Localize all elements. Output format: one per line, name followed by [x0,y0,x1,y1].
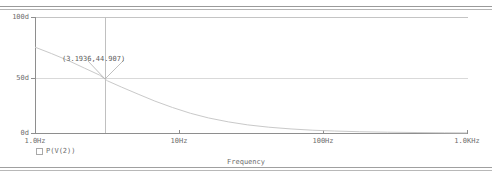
x-tick-1hz [35,130,36,134]
waveform-viewer: 100d 50d 0d 1.0Hz 10Hz 100Hz 1.0KHz (3.1… [0,0,492,177]
y-tick-label-0d: 0d [21,129,29,137]
x-tick-1khz [467,130,468,134]
y-tick-label-50d-wrap: 50d [0,74,29,83]
gridline-50d [35,78,468,79]
x-axis-title: Frequency [0,158,492,166]
x-tick-label-100hz: 100Hz [312,137,333,145]
x-tick-label-1khz: 1.0KHz [454,137,479,145]
x-tick-10hz [179,130,180,134]
y-tick-label-100d-wrap: 100d [0,13,29,22]
legend-marker-square-icon[interactable] [36,148,43,155]
x-tick-label-1hz: 1.0Hz [24,137,45,145]
legend-item-label: P(V(2)) [46,147,76,155]
cursor-readout-label: (3.1936,44.907) [62,55,125,63]
measurement-cursor-line[interactable] [105,17,106,133]
x-tick-100hz [323,130,324,134]
y-tick-label-100d: 100d [12,13,29,21]
plot-top-rule [35,17,468,18]
x-axis-line [35,133,468,134]
window-frame-bottom-line-outer [0,167,492,168]
window-frame-top-line-outer [0,6,492,7]
y-axis-line [35,17,36,133]
y-tick-100d [31,17,36,18]
window-frame-bottom-line-inner [0,170,492,171]
window-frame-top-line-inner [0,9,492,10]
y-tick-50d [31,78,36,79]
y-tick-label-50d: 50d [16,74,29,82]
legend[interactable]: P(V(2)) [36,147,76,155]
x-tick-label-10hz: 10Hz [171,137,188,145]
